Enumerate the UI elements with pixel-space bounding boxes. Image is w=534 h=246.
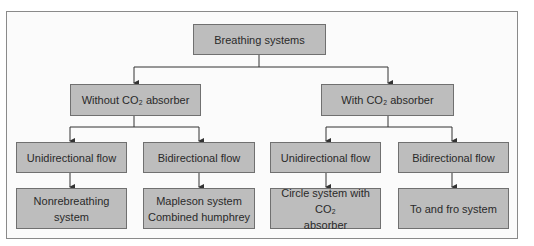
node-with-co2-absorber: With CO₂ absorber — [321, 84, 454, 116]
node-label: Unidirectional flow — [27, 150, 116, 166]
node-label: Bidirectional flow — [158, 150, 241, 166]
node-label: With CO₂ absorber — [341, 92, 433, 108]
node-breathing-systems: Breathing systems — [193, 24, 326, 55]
node-to-and-fro-system: To and fro system — [398, 188, 509, 229]
node-label: Bidirectional flow — [412, 150, 495, 166]
node-mapleson-system: Mapleson system Combined humphrey — [143, 188, 255, 229]
node-label: Breathing systems — [214, 32, 304, 48]
node-label-line: Combined humphrey — [148, 209, 250, 225]
node-label-line: To and fro system — [410, 201, 497, 217]
node-circle-system: Circle system with CO₂ absorber — [270, 188, 381, 229]
node-without-co2-absorber: Without CO₂ absorber — [70, 84, 201, 116]
node-label-line: absorber — [304, 217, 347, 233]
node-bidirectional-flow-without: Bidirectional flow — [143, 142, 255, 173]
node-label: Without CO₂ absorber — [82, 92, 190, 108]
node-label-line: Mapleson system — [156, 193, 242, 209]
node-unidirectional-flow-with: Unidirectional flow — [270, 142, 381, 173]
node-nonrebreathing-system: Nonrebreathing system — [16, 188, 127, 229]
node-bidirectional-flow-with: Bidirectional flow — [398, 142, 509, 173]
node-label-line: system — [54, 209, 89, 225]
node-label-line: Nonrebreathing — [34, 193, 110, 209]
node-unidirectional-flow-without: Unidirectional flow — [16, 142, 127, 173]
node-label: Unidirectional flow — [281, 150, 370, 166]
node-label-line: Circle system with CO₂ — [271, 185, 380, 217]
